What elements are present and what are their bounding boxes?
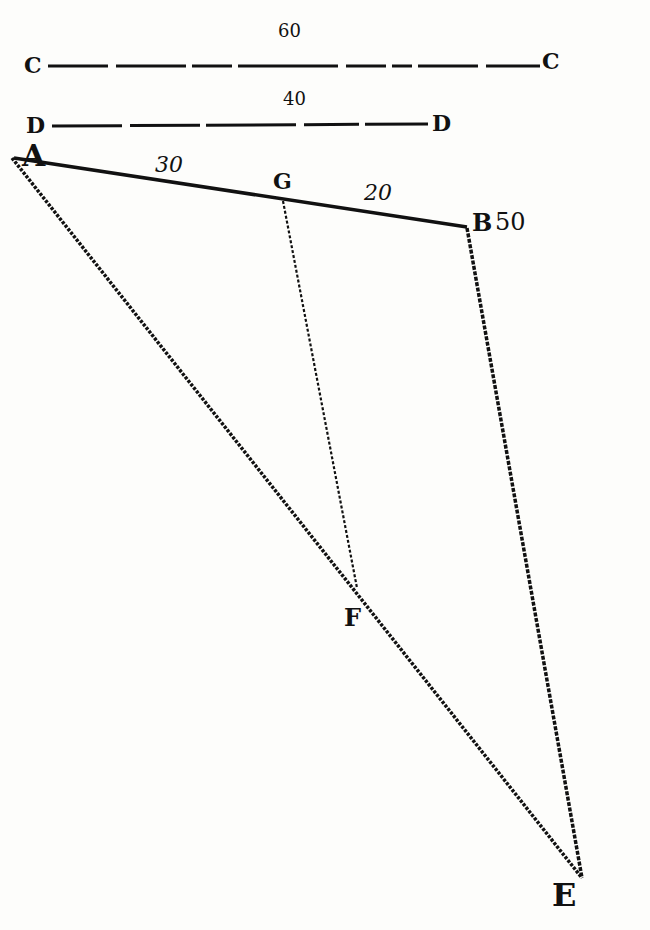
line-ae — [12, 158, 582, 878]
point-a: A — [22, 138, 45, 173]
value-cc: 60 — [278, 20, 301, 41]
line-ab — [14, 158, 467, 227]
segment-ag-length: 30 — [155, 152, 183, 177]
diagram-canvas — [0, 0, 650, 930]
point-e: E — [552, 876, 576, 914]
point-g: G — [273, 168, 292, 194]
segment-gb-length: 20 — [364, 180, 392, 205]
line-dd — [52, 124, 428, 126]
label-d-right: D — [432, 110, 451, 136]
point-b: B — [472, 208, 492, 237]
value-dd: 40 — [283, 88, 306, 109]
segment-b-length: 50 — [495, 208, 526, 236]
label-d-left: D — [26, 112, 45, 138]
point-f: F — [344, 603, 361, 632]
label-c-right: C — [542, 48, 560, 74]
label-c-left: C — [24, 52, 42, 78]
line-gf — [283, 201, 357, 588]
line-be — [467, 228, 582, 878]
